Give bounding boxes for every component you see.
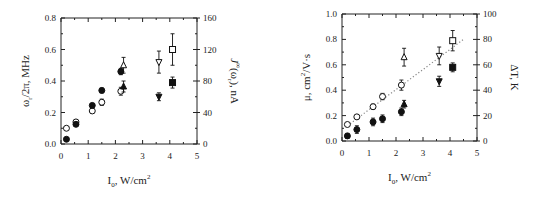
filled-circle-marker <box>118 69 124 75</box>
filled-square-marker <box>450 64 456 70</box>
x-tick-label: 4 <box>448 148 453 158</box>
filled-circle-marker <box>99 87 105 93</box>
x-tick-label: 2 <box>113 151 118 161</box>
filled-circle-marker <box>380 116 386 122</box>
y2-tick-label: 100 <box>483 9 497 19</box>
y-tick-label: 1.0 <box>326 9 338 19</box>
y-tick-label: 0.8 <box>326 34 338 44</box>
filled-circle-marker <box>398 109 404 115</box>
y2-tick-label: 20 <box>483 111 493 121</box>
y2-axis-label: ΔT, K <box>509 64 521 90</box>
y-tick-label: 0.0 <box>45 139 57 149</box>
fit-line-dotted <box>347 39 463 125</box>
x-tick-label: 5 <box>195 151 200 161</box>
y2-tick-label: 60 <box>483 60 493 70</box>
filled-triangle-down-marker <box>436 79 442 85</box>
y-tick-label: 0.4 <box>326 85 338 95</box>
open-circle-marker <box>370 104 376 110</box>
filled-circle-marker <box>73 121 79 127</box>
x-tick-label: 2 <box>394 148 399 158</box>
y-axis-label: ωr/2π, MHz <box>19 55 34 107</box>
y-tick-label: 0.4 <box>45 76 57 86</box>
filled-triangle-up-marker <box>121 83 127 89</box>
open-square-marker <box>170 47 176 53</box>
y-axis-label: μ, cm2/V·s <box>299 54 312 101</box>
filled-square-marker <box>170 80 176 86</box>
x-axis-label: I0, W/cm2 <box>108 173 151 189</box>
open-circle-marker <box>398 82 404 88</box>
y2-tick-label: 120 <box>203 45 217 55</box>
y-tick-label: 0.2 <box>326 111 337 121</box>
y2-axis-label: J∞(ωr), nA <box>226 58 242 104</box>
y2-tick-label: 0 <box>483 136 488 146</box>
x-tick-label: 0 <box>340 148 345 158</box>
filled-circle-marker <box>344 133 350 139</box>
y2-tick-label: 40 <box>203 108 213 118</box>
y-tick-label: 0.8 <box>45 13 57 23</box>
y2-tick-label: 80 <box>483 34 493 44</box>
filled-circle-marker <box>89 102 95 108</box>
y2-tick-label: 0 <box>203 139 208 149</box>
filled-triangle-up-marker <box>401 101 407 107</box>
y2-tick-label: 40 <box>483 85 493 95</box>
y-tick-label: 0.2 <box>45 108 56 118</box>
filled-circle-marker <box>354 127 360 133</box>
y-tick-label: 0.6 <box>326 60 338 70</box>
open-square-marker <box>450 38 456 44</box>
chart-frequency-current: 0123450.00.20.40.60.804080120160I0, W/cm… <box>19 13 242 189</box>
chart-mobility-temperature: 0123450.00.20.40.60.81.0020406080100I0, … <box>299 9 521 186</box>
filled-circle-marker <box>63 136 69 142</box>
open-circle-marker <box>63 125 69 131</box>
y2-tick-label: 160 <box>203 13 217 23</box>
filled-circle-marker <box>370 119 376 125</box>
x-tick-label: 5 <box>475 148 480 158</box>
x-tick-label: 1 <box>86 151 91 161</box>
filled-triangle-down-marker <box>156 94 162 100</box>
x-tick-label: 3 <box>421 148 426 158</box>
x-tick-label: 1 <box>367 148 372 158</box>
y-tick-label: 0.0 <box>326 136 338 146</box>
open-triangle-up-marker <box>401 54 407 60</box>
open-circle-marker <box>354 114 360 120</box>
open-triangle-down-marker <box>156 60 162 66</box>
y-tick-label: 0.6 <box>45 45 57 55</box>
x-tick-label: 4 <box>168 151 173 161</box>
open-triangle-up-marker <box>121 62 127 68</box>
x-axis-label: I0, W/cm2 <box>388 170 431 186</box>
x-tick-label: 0 <box>59 151 64 161</box>
y2-tick-label: 80 <box>203 76 213 86</box>
figure: 0123450.00.20.40.60.804080120160I0, W/cm… <box>0 0 541 203</box>
open-circle-marker <box>99 99 105 105</box>
open-circle-marker <box>344 121 350 127</box>
open-circle-marker <box>380 94 386 100</box>
x-tick-label: 3 <box>140 151 145 161</box>
